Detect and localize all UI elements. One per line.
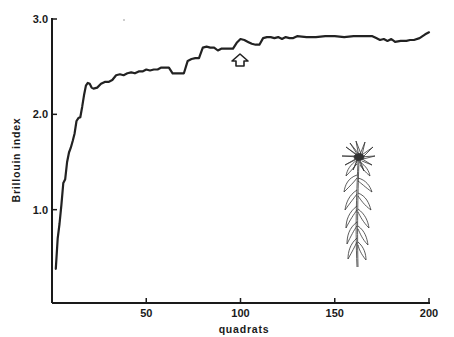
- x-tick-label: 200: [420, 307, 438, 319]
- x-axis-title: quadrats: [219, 323, 270, 335]
- x-ticks: 50100150200: [140, 298, 438, 319]
- y-axis-title: Brillouin index: [10, 118, 22, 203]
- axes: [52, 18, 430, 303]
- x-tick-label: 50: [140, 307, 152, 319]
- x-tick-label: 150: [326, 307, 344, 319]
- scan-speck: [123, 19, 124, 20]
- x-tick-label: 100: [231, 307, 249, 319]
- y-tick-label: 3.0: [33, 13, 48, 25]
- y-tick-label: 2.0: [33, 108, 48, 120]
- y-tick-label: 1.0: [33, 204, 48, 216]
- y-ticks: 1.02.03.0: [33, 13, 57, 216]
- arrow-up-icon: [232, 54, 248, 66]
- brillouin-index-line: [56, 32, 429, 268]
- plant-illustration-icon: [342, 141, 375, 267]
- chart: 1.02.03.0 50100150200 Brillouin index qu…: [0, 0, 454, 337]
